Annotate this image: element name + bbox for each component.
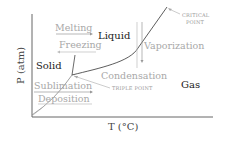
deposition-label: Deposition xyxy=(38,94,90,104)
critical-point-pointer-arrowhead-icon xyxy=(168,8,172,11)
fusion-curve xyxy=(72,55,75,75)
condensation-label: Condensation xyxy=(101,71,167,81)
triple-point-label: TRIPLE POINT xyxy=(112,86,153,91)
melting-label: Melting xyxy=(55,23,92,33)
origin-arrow xyxy=(33,108,42,115)
freezing-label: Freezing xyxy=(59,40,102,50)
y-axis-label: P (atm) xyxy=(16,47,26,84)
critical-point-label-line1: CRITICAL xyxy=(182,13,209,18)
vaporization-label: Vaporization xyxy=(144,41,204,51)
liquid-label: Liquid xyxy=(98,31,130,41)
phase-diagram: Liquid Solid Gas Melting Freezing Vapori… xyxy=(0,0,227,143)
x-axis-label: T (°C) xyxy=(108,122,138,132)
sublimation-label: Sublimation xyxy=(34,81,92,91)
triple-point-pointer-arrowhead-icon xyxy=(74,76,78,79)
gas-label: Gas xyxy=(181,80,200,90)
vaporization-arrowhead-icon xyxy=(141,60,144,63)
freezing-arrowhead-icon xyxy=(57,51,60,54)
solid-label: Solid xyxy=(36,61,62,71)
critical-point-label-line2: POINT xyxy=(186,20,204,25)
